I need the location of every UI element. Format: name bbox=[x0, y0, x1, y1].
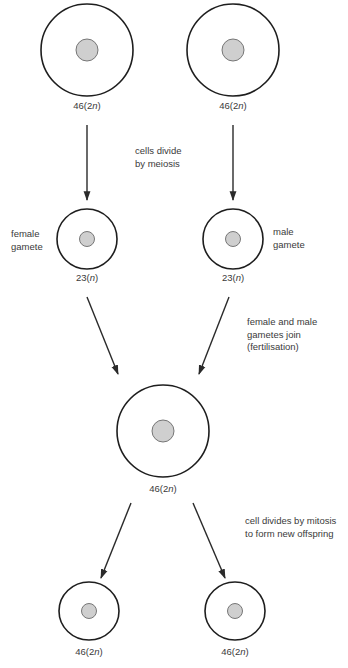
mitosis-step-label: cell divides by mitosis to form new offs… bbox=[245, 515, 336, 540]
male-gamete-label-line2: gamete bbox=[273, 239, 305, 252]
nucleus bbox=[226, 232, 241, 247]
male-gamete-label-line1: male bbox=[273, 226, 305, 239]
chromosome-label-parent-right: 46(2n) bbox=[219, 100, 246, 113]
mitosis-step-line1: cell divides by mitosis bbox=[245, 515, 336, 528]
chromosome-label-offspring-left: 46(2n) bbox=[75, 646, 102, 659]
fertilisation-step-label: female and male gametes join (fertilisat… bbox=[247, 316, 317, 354]
fertilisation-step-line3: (fertilisation) bbox=[247, 341, 317, 354]
male-gamete-label: male gamete bbox=[273, 226, 305, 251]
fertilisation-arrow-right bbox=[199, 297, 229, 374]
chromosome-label-parent-left: 46(2n) bbox=[73, 100, 100, 113]
offspring-cell-right bbox=[205, 582, 265, 640]
nucleus bbox=[80, 232, 95, 247]
mitosis-arrow-left bbox=[101, 503, 131, 578]
nucleus bbox=[222, 39, 244, 61]
fertilisation-step-line2: gametes join bbox=[247, 329, 317, 342]
female-gamete-label-line2: gamete bbox=[11, 241, 43, 254]
offspring-cell-left bbox=[59, 582, 119, 640]
male-gamete-cell bbox=[203, 209, 263, 269]
parent-cell-right bbox=[187, 4, 279, 96]
mitosis-arrow-right bbox=[193, 503, 225, 578]
nucleus bbox=[76, 39, 98, 61]
fertilisation-step-line1: female and male bbox=[247, 316, 317, 329]
female-gamete-cell bbox=[57, 209, 117, 269]
meiosis-step-label: cells divide by meiosis bbox=[135, 145, 181, 170]
mitosis-step-line2: to form new offspring bbox=[245, 528, 336, 541]
chromosome-label-female-gamete: 23(n) bbox=[76, 272, 98, 285]
chromosome-label-zygote: 46(2n) bbox=[149, 483, 176, 496]
parent-cell-left bbox=[41, 4, 133, 96]
meiosis-step-line2: by meiosis bbox=[135, 158, 181, 171]
meiosis-step-line1: cells divide bbox=[135, 145, 181, 158]
fertilisation-arrow-left bbox=[87, 297, 118, 374]
female-gamete-label-line1: female bbox=[11, 228, 43, 241]
nucleus bbox=[82, 604, 97, 619]
chromosome-label-offspring-right: 46(2n) bbox=[221, 646, 248, 659]
chromosome-label-male-gamete: 23(n) bbox=[222, 272, 244, 285]
zygote-cell bbox=[117, 385, 209, 477]
nucleus bbox=[152, 420, 174, 442]
female-gamete-label: female gamete bbox=[11, 228, 43, 253]
nucleus bbox=[228, 604, 243, 619]
